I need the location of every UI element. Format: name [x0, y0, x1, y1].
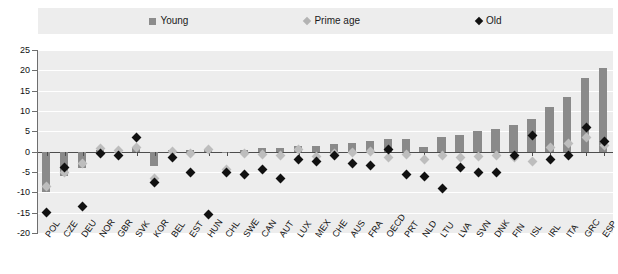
x-axis-tick: [65, 152, 66, 156]
bar-young[interactable]: [491, 129, 499, 151]
marker-prime-age[interactable]: [186, 149, 196, 159]
data-column[interactable]: [361, 50, 379, 233]
marker-old[interactable]: [168, 153, 178, 163]
marker-old[interactable]: [545, 155, 555, 165]
x-axis-tick: [47, 152, 48, 156]
y-axis-tick-label: 20: [2, 66, 30, 75]
data-column[interactable]: [523, 50, 541, 233]
marker-old[interactable]: [42, 208, 52, 218]
marker-prime-age[interactable]: [258, 150, 268, 160]
data-column[interactable]: [92, 50, 110, 233]
data-column[interactable]: [415, 50, 433, 233]
marker-old[interactable]: [401, 169, 411, 179]
legend-label-prime-age: Prime age: [314, 16, 360, 26]
data-column[interactable]: [433, 50, 451, 233]
y-axis-tick-label: 5: [2, 127, 30, 136]
data-column[interactable]: [254, 50, 272, 233]
bar-young[interactable]: [473, 131, 481, 151]
y-axis-tick-label: 25: [2, 46, 30, 55]
x-axis-tick: [227, 152, 228, 156]
y-axis-tick-label: -20: [2, 229, 30, 238]
data-column[interactable]: [451, 50, 469, 233]
marker-prime-age[interactable]: [437, 151, 447, 161]
y-axis-tick-label: -10: [2, 188, 30, 197]
data-column[interactable]: [200, 50, 218, 233]
x-axis-labels: POLCZEDEUNORGBRSVKKORBELESTHUNCHLSWECANA…: [38, 234, 613, 274]
x-axis-tick: [155, 152, 156, 156]
marker-old[interactable]: [491, 167, 501, 177]
data-column[interactable]: [110, 50, 128, 233]
legend-item-young: Young: [149, 16, 188, 26]
data-column[interactable]: [74, 50, 92, 233]
marker-old[interactable]: [455, 163, 465, 173]
legend-item-old: Old: [476, 16, 502, 26]
data-column[interactable]: [272, 50, 290, 233]
data-column[interactable]: [343, 50, 361, 233]
marker-prime-age[interactable]: [455, 153, 465, 163]
data-column[interactable]: [128, 50, 146, 233]
marker-old[interactable]: [294, 155, 304, 165]
marker-old[interactable]: [563, 151, 573, 161]
x-axis-tick: [586, 152, 587, 156]
marker-old[interactable]: [383, 145, 393, 155]
marker-prime-age[interactable]: [401, 150, 411, 160]
marker-old[interactable]: [276, 173, 286, 183]
legend-label-old: Old: [486, 16, 502, 26]
data-column[interactable]: [164, 50, 182, 233]
data-column[interactable]: [218, 50, 236, 233]
y-axis-tick-label: -15: [2, 209, 30, 218]
data-columns: [38, 50, 613, 233]
data-column[interactable]: [308, 50, 326, 233]
marker-old[interactable]: [473, 167, 483, 177]
marker-old[interactable]: [114, 151, 124, 161]
marker-prime-age[interactable]: [276, 151, 286, 161]
plot-area: [38, 50, 613, 233]
data-column[interactable]: [595, 50, 613, 233]
data-column[interactable]: [541, 50, 559, 233]
marker-old[interactable]: [258, 165, 268, 175]
marker-old[interactable]: [96, 149, 106, 159]
data-column[interactable]: [577, 50, 595, 233]
marker-old[interactable]: [348, 159, 358, 169]
diamond-marker-icon: [475, 17, 483, 25]
data-column[interactable]: [236, 50, 254, 233]
marker-old[interactable]: [365, 161, 375, 171]
data-column[interactable]: [487, 50, 505, 233]
marker-old[interactable]: [132, 132, 142, 142]
marker-prime-age[interactable]: [419, 155, 429, 165]
marker-prime-age[interactable]: [365, 147, 375, 157]
marker-prime-age[interactable]: [240, 149, 250, 159]
marker-old[interactable]: [78, 202, 88, 212]
marker-old[interactable]: [419, 171, 429, 181]
marker-old[interactable]: [312, 157, 322, 167]
data-column[interactable]: [56, 50, 74, 233]
data-column[interactable]: [182, 50, 200, 233]
data-column[interactable]: [559, 50, 577, 233]
data-column[interactable]: [469, 50, 487, 233]
data-column[interactable]: [290, 50, 308, 233]
x-axis-tick: [83, 152, 84, 156]
marker-prime-age[interactable]: [527, 157, 537, 167]
data-column[interactable]: [505, 50, 523, 233]
data-column[interactable]: [379, 50, 397, 233]
marker-prime-age[interactable]: [491, 151, 501, 161]
bar-young[interactable]: [437, 137, 445, 152]
diamond-marker-icon: [303, 17, 311, 25]
marker-old[interactable]: [240, 169, 250, 179]
bar-young[interactable]: [455, 135, 463, 151]
chart-legend: Young Prime age Old: [38, 8, 613, 34]
data-column[interactable]: [397, 50, 415, 233]
marker-prime-age[interactable]: [473, 152, 483, 162]
y-axis-tick-label: -5: [2, 168, 30, 177]
data-column[interactable]: [146, 50, 164, 233]
bar-young[interactable]: [509, 125, 517, 151]
data-column[interactable]: [326, 50, 344, 233]
marker-old[interactable]: [186, 167, 196, 177]
marker-prime-age[interactable]: [204, 145, 214, 155]
marker-old[interactable]: [437, 183, 447, 193]
data-column[interactable]: [38, 50, 56, 233]
marker-old[interactable]: [204, 210, 214, 220]
y-axis-tick-label: 0: [2, 148, 30, 157]
chart-container: Young Prime age Old 2520151050-5-10-15-2…: [0, 0, 618, 274]
x-axis-tick: [137, 152, 138, 156]
